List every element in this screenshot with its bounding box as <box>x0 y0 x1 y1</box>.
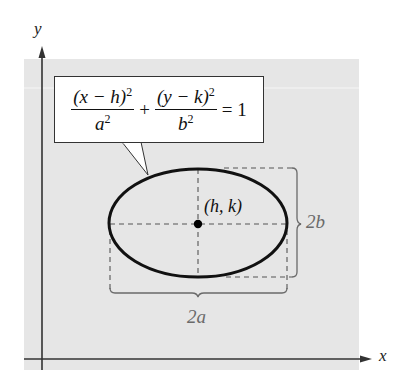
y-term-fraction: (y − k)2 b2 <box>155 86 217 133</box>
x-axis-label: x <box>379 346 387 366</box>
x-term-numerator: (x − h) <box>73 86 126 107</box>
equals-one: = 1 <box>222 99 247 121</box>
exponent: 2 <box>126 85 132 99</box>
y-axis-label: y <box>34 19 42 39</box>
y-term-denominator: b <box>178 113 188 134</box>
minor-axis-label: 2b <box>306 211 325 233</box>
y-term-numerator: (y − k) <box>157 86 209 107</box>
equation-callout: (x − h)2 a2 + (y − k)2 b2 = 1 <box>54 76 264 143</box>
x-term-fraction: (x − h)2 a2 <box>71 86 134 133</box>
ellipse-equation: (x − h)2 a2 + (y − k)2 b2 = 1 <box>55 77 263 142</box>
plus-operator: + <box>139 99 150 121</box>
exponent: 2 <box>209 85 215 99</box>
exponent: 2 <box>104 112 110 126</box>
center-label: (h, k) <box>204 196 242 217</box>
major-axis-label: 2a <box>187 306 206 328</box>
x-axis-arrow-icon <box>360 356 372 363</box>
y-axis-arrow-icon <box>39 46 46 58</box>
center-point <box>194 220 202 228</box>
exponent: 2 <box>188 112 194 126</box>
